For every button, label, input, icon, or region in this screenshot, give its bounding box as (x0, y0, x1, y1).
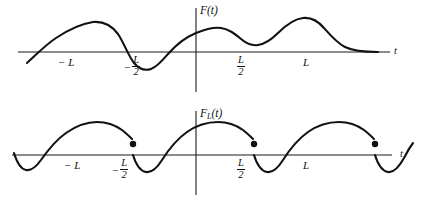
panel-top-function: F(t) t − L − L 2 L 2 L (0, 0, 422, 103)
discontinuity-dot-3L-over-2 (372, 141, 378, 147)
fraction-numerator: L (132, 55, 140, 66)
tick-label-L-top: L (303, 57, 309, 68)
tick-label-L-bottom: L (303, 160, 309, 171)
fraction-numerator: L (120, 158, 128, 169)
tick-label-L-over-2-bottom: L 2 (237, 159, 245, 181)
tick-label-minus-L-over-2-top: − L 2 (124, 56, 140, 78)
minus-sign-top-left: − (124, 62, 130, 73)
fraction-denominator: 2 (237, 169, 245, 181)
curve-F-of-t (27, 18, 378, 70)
axis-label-t-bottom: t (400, 149, 403, 160)
tick-label-L-over-2-top: L 2 (237, 56, 245, 78)
fraction-denominator: 2 (237, 66, 245, 78)
curve-FL-segment-4 (375, 143, 413, 172)
axis-label-F-of-t: F(t) (200, 5, 218, 17)
fraction-L-over-2-top-right: L 2 (237, 55, 245, 77)
panel-bottom-periodic-extension: FL(t) t − L − L 2 L 2 L (0, 103, 422, 206)
fraction-L-over-2-top-left: L 2 (132, 55, 140, 77)
axis-label-FL-base: F (200, 107, 207, 119)
fraction-denominator: 2 (120, 169, 128, 181)
figure-periodic-extension: F(t) t − L − L 2 L 2 L (0, 0, 422, 206)
discontinuity-dot-minus-L-over-2 (130, 141, 136, 147)
fraction-L-over-2-bottom-left: L 2 (120, 158, 128, 180)
axis-label-t-top: t (394, 46, 397, 57)
tick-label-minus-L-over-2-bottom: − L 2 (112, 159, 128, 181)
curve-FL-segment-2 (133, 122, 253, 172)
fraction-L-over-2-bottom-right: L 2 (237, 158, 245, 180)
fraction-numerator: L (237, 55, 245, 66)
minus-sign-bottom-left: − (112, 165, 118, 176)
discontinuity-dot-L-over-2 (251, 141, 257, 147)
axis-label-FL-argument: (t) (211, 107, 222, 119)
curve-FL-segment-3 (254, 122, 374, 172)
fraction-denominator: 2 (132, 66, 140, 78)
tick-label-minus-L-bottom: − L (64, 160, 80, 171)
fraction-numerator: L (237, 158, 245, 169)
tick-label-minus-L-top: − L (58, 57, 74, 68)
axis-label-FL-of-t: FL(t) (200, 108, 222, 121)
